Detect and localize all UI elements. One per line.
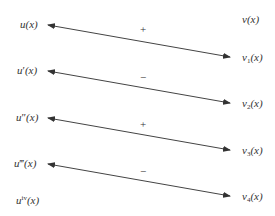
label-v1: v1(x) <box>242 52 263 65</box>
double-arrow-u1-v2 <box>48 71 230 103</box>
label-u0: u(x) <box>20 19 38 30</box>
label-v2: v2(x) <box>242 98 263 111</box>
sign-minus-4: − <box>140 166 146 177</box>
label-argument: (x) <box>26 111 38 123</box>
label-argument: (x) <box>27 194 39 206</box>
double-arrow-u0-v1 <box>48 25 230 57</box>
label-argument: (x) <box>25 64 37 76</box>
label-argument: (x) <box>24 157 36 169</box>
label-argument: (x) <box>247 13 259 25</box>
arrows-layer <box>0 0 275 216</box>
double-arrow-u3-v4 <box>48 164 230 196</box>
label-u2: u″(x) <box>16 112 38 123</box>
label-u3: u‴(x) <box>14 158 36 169</box>
label-u1: u′(x) <box>17 65 37 76</box>
label-argument: (x) <box>250 97 262 109</box>
label-v3: v3(x) <box>242 145 263 158</box>
label-v4: v4(x) <box>242 191 263 204</box>
sign-minus-2: − <box>140 72 146 83</box>
label-argument: (x) <box>250 144 262 156</box>
label-u4: uiv(x) <box>16 195 39 206</box>
sign-plus-1: + <box>140 24 146 35</box>
label-argument: (x) <box>26 18 38 30</box>
label-argument: (x) <box>250 190 262 202</box>
sign-plus-3: + <box>140 119 146 130</box>
label-v0: v(x) <box>242 14 259 25</box>
label-argument: (x) <box>250 51 262 63</box>
double-arrow-u2-v3 <box>48 118 230 150</box>
